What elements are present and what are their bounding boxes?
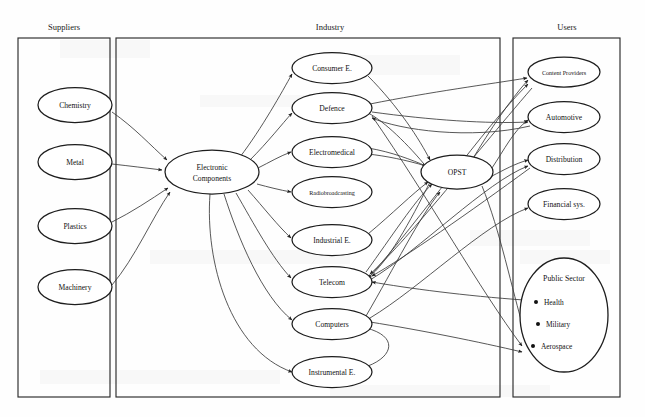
noise-blob-0: [60, 40, 150, 58]
node-label-plastics: Plastics: [63, 222, 86, 231]
noise-blob-3: [470, 230, 590, 246]
node-label-instrumental-e: Instrumental E.: [309, 368, 356, 377]
bullet-label-military: Military: [546, 320, 571, 329]
node-opst[interactable]: OPST: [421, 155, 493, 189]
node-consumer-e[interactable]: Consumer E.: [292, 53, 372, 84]
node-machinery[interactable]: Machinery: [38, 270, 112, 305]
node-financial-sys[interactable]: Financial sys.: [528, 189, 600, 220]
edge-electronic-components-to-industrial-e: [248, 190, 291, 238]
node-telecom[interactable]: Telecom: [292, 267, 372, 298]
node-label-radiobroadcasting: Radiobroadcasting: [309, 190, 355, 196]
nodes-layer: ChemistryMetalPlasticsMachineryElectroni…: [38, 53, 608, 388]
edge-machinery-to-electronic-components: [112, 192, 170, 285]
node-label-defence: Defence: [319, 104, 345, 113]
bullet-label-aerospace: Aerospace: [541, 342, 573, 351]
node-label-metal: Metal: [66, 158, 84, 167]
edge-chemistry-to-electronic-components: [112, 112, 167, 160]
node-label-computers: Computers: [315, 320, 348, 329]
node-label-electronic-components: Electronic: [196, 163, 228, 172]
value-chain-diagram: SuppliersIndustryUsers ChemistryMetalPla…: [0, 0, 645, 417]
node-label2-electronic-components: Components: [193, 174, 231, 183]
edge-computers-to-public-sector: [370, 322, 522, 352]
node-distribution[interactable]: Distribution: [528, 144, 600, 175]
bullet-dot-icon-2: [531, 344, 535, 348]
panel-title-users: Users: [557, 22, 576, 32]
edge-opst-to-public-sector: [482, 186, 524, 330]
noise-blob-4: [40, 370, 280, 384]
bullet-dot-icon-0: [534, 300, 538, 304]
edge-defence-to-automotive: [372, 112, 528, 123]
bullet-label-health: Health: [544, 298, 564, 307]
node-electronic-components[interactable]: ElectronicComponents: [165, 150, 259, 194]
panel-box-industry: [116, 38, 500, 397]
edge-defence-to-distribution: [370, 78, 527, 104]
node-label-consumer-e: Consumer E.: [312, 64, 352, 73]
node-label-electromedical: Electromedical: [309, 148, 355, 157]
edge-electronic-components-to-defence: [250, 113, 292, 160]
node-computers[interactable]: Computers: [292, 309, 372, 340]
node-electromedical[interactable]: Electromedical: [292, 137, 372, 168]
edge-plastics-to-electronic-components: [112, 188, 168, 222]
edge-electronic-components-to-instrumental-e: [209, 194, 292, 372]
node-content-providers[interactable]: Content Providers: [528, 57, 600, 87]
node-label-telecom: Telecom: [319, 278, 345, 287]
panel-title-suppliers: Suppliers: [48, 22, 80, 32]
node-automotive[interactable]: Automotive: [528, 102, 600, 133]
node-shape-electronic-components: [165, 150, 259, 194]
edge-metal-to-electronic-components: [112, 164, 162, 170]
node-chemistry[interactable]: Chemistry: [38, 88, 112, 123]
edge-electronic-components-to-radiobroadcasting: [257, 184, 291, 192]
node-label-distribution: Distribution: [546, 155, 583, 164]
bullet-dot-icon-1: [536, 322, 540, 326]
edge-instrumental-e-to-computers: [366, 328, 389, 366]
edge-electronic-components-to-electromedical: [258, 152, 291, 168]
edge-industrial-e-to-opst: [368, 182, 428, 234]
node-radiobroadcasting[interactable]: Radiobroadcasting: [292, 177, 372, 208]
diagram-canvas: SuppliersIndustryUsers ChemistryMetalPla…: [0, 0, 645, 417]
edge-electronic-components-to-telecom: [236, 193, 291, 278]
node-public-sector[interactable]: Public SectorHealthMilitaryAerospace: [520, 258, 608, 372]
node-label-opst: OPST: [448, 168, 467, 177]
node-label-machinery: Machinery: [59, 283, 92, 292]
node-label-automotive: Automotive: [546, 113, 583, 122]
edge-electronic-components-to-consumer-e: [240, 74, 292, 157]
noise-blob-5: [330, 385, 550, 397]
node-label-content-providers: Content Providers: [542, 70, 587, 76]
node-instrumental-e[interactable]: Instrumental E.: [292, 357, 372, 388]
edge-public-sector-to-telecom: [372, 282, 524, 300]
node-defence[interactable]: Defence: [292, 93, 372, 124]
node-plastics[interactable]: Plastics: [38, 209, 112, 244]
panel-title-industry: Industry: [316, 22, 345, 32]
node-label-public-sector: Public Sector: [543, 274, 585, 283]
node-label-financial-sys: Financial sys.: [543, 200, 585, 209]
node-metal[interactable]: Metal: [38, 145, 112, 180]
node-industrial-e[interactable]: Industrial E.: [292, 225, 372, 256]
node-label-industrial-e: Industrial E.: [313, 236, 351, 245]
node-label-chemistry: Chemistry: [59, 101, 91, 110]
